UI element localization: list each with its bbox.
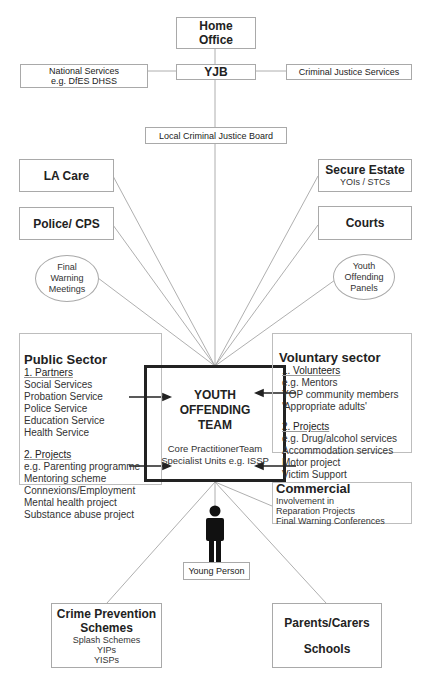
yop-line-1: Youth — [353, 261, 376, 272]
project-item: Mental health project — [24, 497, 164, 509]
partner-item: Social Services — [24, 379, 164, 391]
crime-prevention-box: Crime Prevention Schemes Splash Schemes … — [51, 603, 162, 668]
yot-title-line-1: YOUTH — [147, 388, 283, 403]
partners-heading: 1. Partners — [24, 367, 164, 379]
secure-estate-title: Secure Estate — [325, 163, 404, 177]
home-office-line-2: Office — [199, 33, 233, 47]
youth-offending-team-box: YOUTH OFFENDING TEAM Core PractitionerTe… — [144, 365, 286, 482]
final-warning-line-3: Meetings — [49, 284, 86, 295]
la-care-box: LA Care — [19, 159, 114, 192]
police-cps-box: Police/ CPS — [19, 207, 114, 240]
project-item: Mentoring scheme — [24, 473, 164, 485]
public-sector-content: Public Sector 1. Partners Social Service… — [24, 352, 164, 521]
criminal-justice-services-box: Criminal Justice Services — [286, 64, 412, 80]
commercial-item: Involvement in — [276, 496, 416, 506]
yot-title-line-2: OFFENDING — [147, 403, 283, 418]
final-warning-line-2: Warning — [50, 273, 83, 284]
parents-schools-box: Parents/Carers Schools — [272, 603, 382, 668]
young-person-label: Young Person — [188, 566, 244, 576]
volunteer-item: e.g. Mentors — [282, 377, 419, 389]
vol-project-item: Accommodation services — [282, 445, 419, 457]
final-warning-meetings-ellipse: Final Warning Meetings — [35, 255, 99, 302]
partner-item: Education Service — [24, 415, 164, 427]
commercial-title: Commercial — [276, 481, 416, 496]
partner-item: Health Service — [24, 427, 164, 439]
yjb-box: YJB — [176, 64, 256, 80]
person-icon — [202, 505, 228, 565]
volunteer-item: YOP community members — [282, 389, 419, 401]
crime-prevention-item: YISPs — [94, 655, 119, 665]
volunteers-heading: 1. Volunteers — [282, 365, 419, 377]
voluntary-sector-title: Voluntary sector — [279, 350, 419, 365]
yop-line-2: Offending — [345, 272, 384, 283]
partner-item: Police Service — [24, 403, 164, 415]
yot-sub-line-2: Specialist Units e.g. ISSP — [147, 455, 283, 467]
project-item: e.g. Parenting programme — [24, 461, 164, 473]
home-office-box: Home Office — [176, 17, 256, 49]
vol-projects-heading: 2. Projects — [282, 421, 419, 433]
crime-prevention-item: YIPs — [97, 645, 116, 655]
parents-carers-label: Parents/Carers — [284, 616, 369, 630]
commercial-content: Commercial Involvement in Reparation Pro… — [276, 481, 416, 526]
criminal-justice-services-label: Criminal Justice Services — [299, 67, 400, 77]
voluntary-sector-content: Voluntary sector 1. Volunteers e.g. Ment… — [279, 350, 419, 481]
young-person-box: Young Person — [183, 562, 250, 580]
partner-item: Probation Service — [24, 391, 164, 403]
projects-heading: 2. Projects — [24, 449, 164, 461]
public-sector-title: Public Sector — [24, 352, 164, 367]
local-cjb-label: Local Criminal Justice Board — [159, 131, 273, 141]
yjb-label: YJB — [204, 65, 227, 79]
la-care-label: LA Care — [44, 169, 90, 183]
police-cps-label: Police/ CPS — [33, 217, 100, 231]
yot-title-line-3: TEAM — [147, 418, 283, 433]
crime-prevention-title-2: Schemes — [80, 621, 133, 635]
courts-label: Courts — [346, 216, 385, 230]
volunteer-item: 'Appropriate adults' — [282, 401, 419, 413]
yop-line-3: Panels — [350, 283, 378, 294]
commercial-item: Final Warning Conferences — [276, 516, 416, 526]
home-office-line-1: Home — [199, 19, 232, 33]
project-item: Connexions/Employment — [24, 485, 164, 497]
commercial-item: Reparation Projects — [276, 506, 416, 516]
national-services-line-1: National Services — [49, 66, 119, 76]
schools-label: Schools — [304, 642, 351, 656]
youth-offending-panels-ellipse: Youth Offending Panels — [333, 254, 395, 300]
local-cjb-box: Local Criminal Justice Board — [145, 127, 287, 144]
crime-prevention-title-1: Crime Prevention — [57, 607, 156, 621]
vol-project-item: e.g. Drug/alcohol services — [282, 433, 419, 445]
vol-project-item: Motor project — [282, 457, 419, 469]
yot-title: YOUTH OFFENDING TEAM — [147, 388, 283, 433]
secure-estate-sub: YOIs / STCs — [340, 177, 390, 188]
final-warning-line-1: Final — [57, 262, 77, 273]
national-services-box: National Services e.g. DfES DHSS — [20, 64, 148, 88]
yot-sub-line-1: Core PractitionerTeam — [147, 443, 283, 455]
project-item: Substance abuse project — [24, 509, 164, 521]
vol-project-item: Victim Support — [282, 469, 419, 481]
crime-prevention-item: Splash Schemes — [73, 635, 141, 645]
national-services-line-2: e.g. DfES DHSS — [51, 76, 117, 86]
secure-estate-box: Secure Estate YOIs / STCs — [318, 159, 412, 192]
yot-sub: Core PractitionerTeam Specialist Units e… — [147, 443, 283, 467]
courts-box: Courts — [318, 206, 412, 240]
